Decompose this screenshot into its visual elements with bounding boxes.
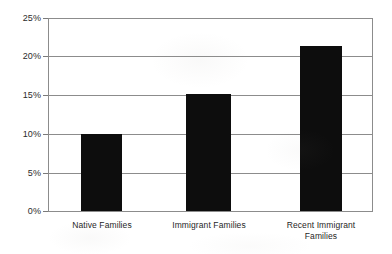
bar-chart: 25% 20% 15% 10% 5% 0% Native Families Im… (0, 0, 392, 254)
gridline-0 (48, 211, 373, 212)
y-axis-label-25-text: 25% (1, 13, 41, 23)
x-axis-label-immigrant-families: Immigrant Families (158, 220, 260, 231)
x-axis-label-immigrant-families-line1: Immigrant Families (172, 220, 246, 230)
bar-immigrant-families (186, 94, 231, 211)
x-axis-label-native-families-line1: Native Families (72, 220, 132, 230)
y-axis-label-10-text: 10% (1, 129, 41, 139)
y-tick-mark-15 (43, 95, 48, 96)
y-axis-label-0-text: 0% (1, 206, 41, 216)
y-axis-label-10: 10% (0, 129, 41, 140)
y-axis-label-5: 5% (0, 168, 41, 179)
bar-native-families (81, 134, 122, 211)
gridline-25 (48, 18, 373, 19)
y-axis-label-20: 20% (0, 51, 41, 62)
x-axis-label-recent-immigrant-families-line2: Families (268, 231, 374, 242)
y-axis-label-0: 0% (0, 206, 41, 217)
y-axis-label-15-text: 15% (1, 90, 41, 100)
y-tick-mark-0 (43, 211, 48, 212)
y-axis-label-25: 25% (0, 13, 41, 24)
y-tick-mark-25 (43, 18, 48, 19)
x-axis-label-native-families: Native Families (54, 220, 150, 231)
y-tick-mark-20 (43, 56, 48, 57)
x-axis-label-recent-immigrant-families: Recent Immigrant Families (268, 220, 374, 242)
y-tick-mark-5 (43, 173, 48, 174)
y-axis-label-5-text: 5% (1, 168, 41, 178)
y-axis-label-20-text: 20% (1, 51, 41, 61)
bar-recent-immigrant-families (300, 46, 342, 211)
x-axis-label-recent-immigrant-families-line1: Recent Immigrant (287, 220, 356, 230)
y-axis-label-15: 15% (0, 90, 41, 101)
y-tick-mark-10 (43, 134, 48, 135)
